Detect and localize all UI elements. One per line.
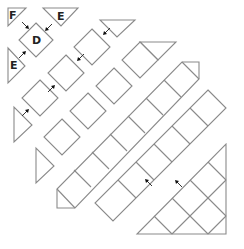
arrow-icon	[19, 51, 26, 58]
arrow-icon	[45, 24, 52, 31]
label-E-top: E	[57, 11, 65, 22]
triangle-band2-top	[100, 20, 135, 37]
diamond-band3-2	[96, 68, 132, 104]
arrow-icon	[22, 109, 29, 116]
label-D: D	[32, 35, 41, 46]
arrow-icon	[22, 22, 29, 29]
arrow-icon	[103, 28, 110, 35]
label-F: F	[9, 10, 17, 21]
diamond-band3-3	[70, 93, 106, 129]
diamond-band3-4	[44, 119, 80, 155]
arrow-icon	[175, 180, 182, 187]
triangle-band2-left	[14, 107, 32, 142]
diagram: F D E E	[0, 0, 244, 249]
triangle-band3-left	[36, 148, 54, 183]
label-E-left: E	[10, 60, 18, 71]
arrow-icon	[77, 54, 84, 61]
